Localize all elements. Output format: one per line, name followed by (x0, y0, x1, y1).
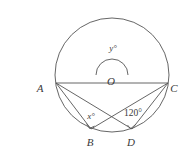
segment-a-b (56, 83, 91, 129)
vertex-label-d: D (126, 136, 135, 148)
geometry-diagram-canvas: A C O B D y° x° 120° (0, 0, 189, 149)
segment-c-b (91, 83, 168, 129)
vertex-label-o: O (107, 75, 115, 87)
angle-label-120: 120° (124, 108, 142, 118)
vertex-label-b: B (87, 136, 94, 148)
vertex-label-c: C (170, 82, 178, 94)
vertex-label-a: A (36, 82, 44, 94)
geometry-figure: A C O B D y° x° 120° (0, 0, 189, 149)
angle-arc-y (96, 59, 128, 75)
angle-label-y: y° (108, 43, 117, 53)
segment-a-d (56, 83, 132, 129)
angle-label-x: x° (86, 111, 95, 121)
segment-c-d (132, 83, 168, 129)
